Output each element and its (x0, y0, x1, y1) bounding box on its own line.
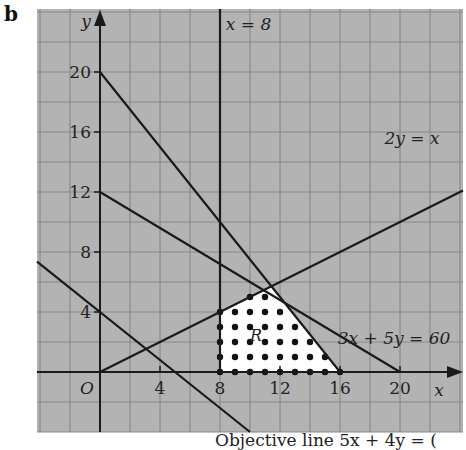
x-tick-label: 8 (215, 378, 226, 398)
x-tick-label: 4 (155, 378, 166, 398)
integer-point-dot (292, 324, 298, 330)
integer-point-dot (232, 309, 238, 315)
x-tick-label: 16 (329, 378, 351, 398)
integer-point-dot (277, 339, 283, 345)
y-tick-label: 20 (69, 62, 91, 82)
integer-point-dot (277, 354, 283, 360)
integer-point-dot (292, 339, 298, 345)
integer-point-dot (307, 339, 313, 345)
integer-point-dot (262, 324, 268, 330)
integer-point-dot (277, 309, 283, 315)
integer-point-dot (232, 324, 238, 330)
integer-point-dot (262, 309, 268, 315)
integer-point-dot (262, 339, 268, 345)
y-tick-label: 4 (80, 302, 91, 322)
integer-point-dot (247, 309, 253, 315)
line-label-2y-x: 2y = x (383, 128, 439, 148)
integer-point-dot (232, 354, 238, 360)
line-label-x8: x = 8 (226, 14, 272, 34)
origin-label: O (80, 378, 94, 398)
objective-line-caption: Objective line 5x + 4y = ( (215, 430, 437, 450)
region-label-r: R (249, 326, 262, 345)
integer-point-dot (262, 354, 268, 360)
x-tick-label: 20 (389, 378, 411, 398)
x-tick-label: 12 (269, 378, 291, 398)
integer-point-dot (277, 324, 283, 330)
y-tick-label: 8 (80, 242, 91, 262)
y-tick-label: 12 (69, 182, 91, 202)
y-axis-label: y (80, 11, 91, 31)
x-axis-label: x (434, 380, 444, 400)
y-tick-label: 16 (69, 122, 91, 142)
integer-point-dot (307, 354, 313, 360)
integer-point-dot (232, 339, 238, 345)
integer-point-dot (262, 294, 268, 300)
integer-point-dot (247, 354, 253, 360)
integer-point-dot (292, 354, 298, 360)
line-label-3x-5y-60: 3x + 5y = 60 (338, 328, 451, 348)
